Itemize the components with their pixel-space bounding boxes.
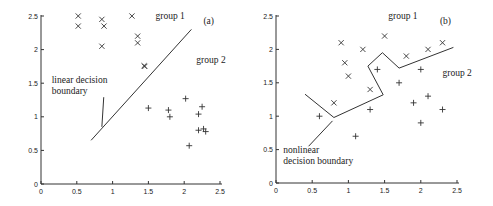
x-tick-label: 2 [182, 188, 186, 195]
panel-label: (b) [440, 16, 451, 27]
plus-marker-icon [145, 105, 151, 111]
plus-marker-icon [199, 104, 205, 110]
group-2-label: group 2 [443, 68, 473, 78]
y-tick-label: 0.5 [263, 146, 273, 153]
x-marker-icon [135, 34, 140, 39]
y-tick-label: 2 [34, 46, 38, 53]
x-tick-label: 0 [39, 188, 43, 195]
x-marker-icon [76, 13, 81, 18]
x-marker-icon [135, 40, 140, 45]
group-1-label: group 1 [388, 11, 418, 21]
x-marker-icon [99, 44, 104, 49]
x-marker-icon [342, 60, 347, 65]
y-tick-label: 0.5 [28, 147, 38, 154]
annotation-pointer-line [102, 97, 104, 127]
group-1-points [76, 13, 148, 69]
plus-marker-icon [411, 100, 417, 106]
panel-label: (a) [203, 16, 214, 27]
x-tick-label: 1.5 [380, 187, 390, 194]
x-marker-icon [360, 47, 365, 52]
y-tick-label: 2 [269, 46, 273, 53]
plus-marker-icon [418, 120, 424, 126]
x-marker-icon [440, 40, 445, 45]
group-2-label: group 2 [196, 55, 226, 65]
group-2-points [316, 66, 445, 139]
plus-marker-icon [316, 113, 322, 119]
x-marker-icon [368, 87, 373, 92]
plus-marker-icon [418, 66, 424, 72]
y-tick-label: 2.5 [263, 13, 273, 20]
x-marker-icon [99, 17, 104, 22]
x-tick-label: 1.5 [144, 188, 154, 195]
x-marker-icon [129, 13, 134, 18]
y-tick-label: 1.5 [263, 79, 273, 86]
y-tick-label: 0 [269, 180, 273, 187]
x-tick-label: 1 [346, 187, 350, 194]
figure: 00.511.522.500.511.522.5group 1group 2li… [0, 0, 493, 206]
plus-marker-icon [183, 96, 189, 102]
x-tick-label: 0.5 [307, 187, 317, 194]
panel-b: 00.511.522.500.511.522.5group 1group 2no… [263, 11, 472, 194]
y-tick-label: 1 [269, 113, 273, 120]
plus-marker-icon [165, 107, 171, 113]
x-tick-label: 2.5 [452, 187, 462, 194]
boundary-annotation-text: nonlinear [283, 145, 320, 155]
y-tick-label: 0 [34, 181, 38, 188]
plus-marker-icon [353, 133, 359, 139]
plus-marker-icon [167, 114, 173, 120]
plus-marker-icon [196, 111, 202, 117]
x-tick-label: 2.5 [215, 188, 225, 195]
group-2-points [145, 96, 208, 149]
annotation-pointer-line [309, 121, 333, 146]
plus-marker-icon [396, 80, 402, 86]
boundary-annotation-text: decision boundary [283, 156, 353, 166]
plus-marker-icon [440, 107, 446, 113]
boundary-annotation-text: linear decision [52, 75, 108, 85]
x-marker-icon [331, 100, 336, 105]
plus-marker-icon [186, 143, 192, 149]
group-1-label: group 1 [156, 11, 186, 21]
x-marker-icon [404, 53, 409, 58]
y-tick-label: 1 [34, 113, 38, 120]
x-marker-icon [346, 74, 351, 79]
plus-marker-icon [425, 93, 431, 99]
x-marker-icon [339, 40, 344, 45]
y-tick-label: 1.5 [28, 80, 38, 87]
x-tick-label: 0 [274, 187, 278, 194]
plus-marker-icon [367, 107, 373, 113]
decision-boundary-line [305, 47, 453, 117]
x-marker-icon [101, 23, 106, 28]
x-tick-label: 1 [111, 188, 115, 195]
plus-marker-icon [374, 66, 380, 72]
plus-marker-icon [196, 127, 202, 133]
x-marker-icon [76, 23, 81, 28]
panel-a: 00.511.522.500.511.522.5group 1group 2li… [28, 11, 226, 195]
x-marker-icon [425, 47, 430, 52]
x-tick-label: 0.5 [72, 188, 82, 195]
x-marker-icon [382, 33, 387, 38]
x-tick-label: 2 [419, 187, 423, 194]
y-tick-label: 2.5 [28, 13, 38, 20]
boundary-annotation-text: boundary [52, 86, 88, 96]
